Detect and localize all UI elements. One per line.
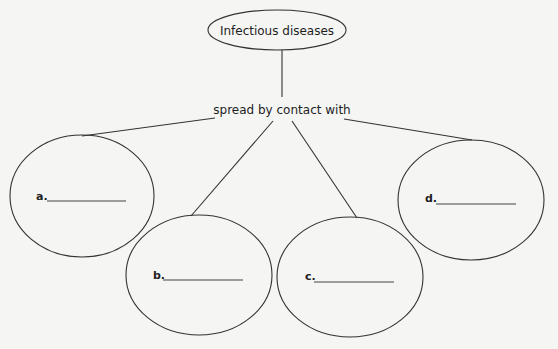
concept-map: Infectious diseases spread by contact wi… [0, 0, 558, 349]
branch-node-b: b. [126, 215, 272, 335]
branch-node-d: d. [398, 140, 544, 260]
connector-label: spread by contact with [213, 103, 350, 117]
branch-node-c: c. [277, 217, 423, 337]
root-node: Infectious diseases [208, 10, 346, 50]
branch-ellipse-d [398, 140, 544, 260]
branch-line-c [292, 121, 357, 218]
branch-line-d [344, 119, 472, 140]
branch-line-a [82, 118, 215, 136]
branch-label-d: d. [425, 192, 437, 205]
branch-label-c: c. [305, 270, 316, 283]
branch-label-a: a. [36, 190, 48, 203]
branch-ellipse-a [10, 135, 154, 257]
root-label: Infectious diseases [220, 24, 334, 38]
concept-map-svg: Infectious diseases spread by contact wi… [0, 0, 558, 349]
branch-ellipse-b [126, 215, 272, 335]
branch-node-a: a. [10, 135, 154, 257]
branch-ellipse-c [277, 217, 423, 337]
branch-line-b [191, 121, 273, 216]
